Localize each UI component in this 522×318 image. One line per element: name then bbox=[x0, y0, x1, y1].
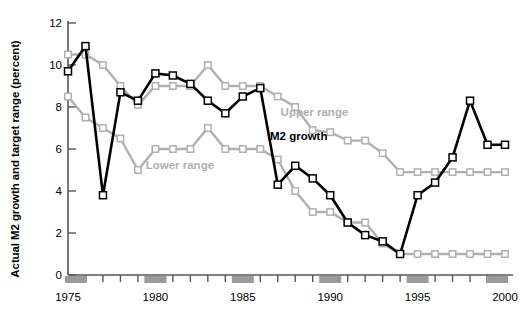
series-marker bbox=[239, 93, 246, 100]
series-marker bbox=[449, 251, 455, 257]
axis-lines bbox=[68, 21, 513, 275]
data-series-group bbox=[65, 43, 509, 258]
x-tick-major-block bbox=[232, 276, 254, 283]
series-marker bbox=[397, 169, 403, 175]
series-marker bbox=[449, 169, 455, 175]
x-tick-major-block bbox=[65, 276, 87, 283]
series-marker bbox=[100, 125, 106, 131]
series-marker bbox=[152, 83, 158, 89]
series-marker bbox=[222, 83, 228, 89]
series-marker bbox=[204, 97, 211, 104]
series-marker bbox=[327, 209, 333, 215]
series-marker bbox=[344, 137, 350, 143]
series-marker bbox=[414, 169, 420, 175]
series-annotation-label: Upper range bbox=[281, 106, 349, 118]
series-marker bbox=[205, 62, 211, 68]
series-marker bbox=[292, 188, 298, 194]
series-marker bbox=[484, 251, 490, 257]
series-marker bbox=[65, 51, 71, 57]
x-tick-major-block bbox=[407, 276, 429, 283]
y-axis-ticks: 024681012 bbox=[49, 17, 76, 281]
y-tick-label: 0 bbox=[56, 269, 62, 281]
x-tick-label: 2000 bbox=[492, 291, 518, 303]
series-marker bbox=[344, 219, 351, 226]
series-marker bbox=[362, 137, 368, 143]
y-tick-label: 2 bbox=[56, 227, 62, 239]
series-marker bbox=[502, 251, 508, 257]
series-marker bbox=[65, 93, 71, 99]
x-tick-major-block bbox=[144, 276, 166, 283]
x-tick-major-block bbox=[486, 276, 508, 283]
series-marker bbox=[152, 146, 158, 152]
series-marker bbox=[117, 135, 123, 141]
series-marker bbox=[187, 146, 193, 152]
series-marker bbox=[187, 80, 194, 87]
series-marker bbox=[170, 83, 176, 89]
series-marker bbox=[257, 85, 264, 92]
series-annotations: Upper rangeM2 growthLower range bbox=[146, 106, 349, 171]
m2-growth-chart: Actual M2 growth and target range (perce… bbox=[0, 0, 522, 318]
series-marker bbox=[484, 169, 490, 175]
series-marker bbox=[82, 114, 88, 120]
series-marker bbox=[292, 162, 299, 169]
x-tick-label: 1975 bbox=[55, 291, 81, 303]
series-marker bbox=[484, 141, 491, 148]
series-marker bbox=[309, 175, 316, 182]
series-marker bbox=[275, 93, 281, 99]
series-marker bbox=[152, 70, 159, 77]
series-marker bbox=[414, 192, 421, 199]
chart-plot-area: 024681012 197519801985199019952000 Upper… bbox=[0, 0, 522, 318]
series-marker bbox=[134, 97, 141, 104]
series-marker bbox=[432, 179, 439, 186]
series-marker bbox=[257, 146, 263, 152]
x-tick-label: 1990 bbox=[317, 291, 343, 303]
series-marker bbox=[222, 146, 228, 152]
x-tick-label: 1985 bbox=[230, 291, 256, 303]
series-marker bbox=[379, 238, 386, 245]
series-marker bbox=[467, 169, 473, 175]
series-marker bbox=[467, 97, 474, 104]
series-marker bbox=[414, 251, 420, 257]
y-tick-label: 6 bbox=[56, 143, 62, 155]
series-marker bbox=[205, 125, 211, 131]
series-marker bbox=[274, 181, 281, 188]
series-marker bbox=[502, 141, 509, 148]
x-axis-ticks: 197519801985199019952000 bbox=[55, 275, 518, 303]
series-marker bbox=[100, 62, 106, 68]
series-marker bbox=[397, 251, 404, 258]
y-tick-label: 4 bbox=[56, 185, 63, 197]
series-marker bbox=[362, 219, 368, 225]
series-marker bbox=[310, 209, 316, 215]
y-tick-label: 10 bbox=[49, 59, 62, 71]
series-marker bbox=[240, 146, 246, 152]
series-marker bbox=[467, 251, 473, 257]
x-tick-label: 1980 bbox=[143, 291, 169, 303]
series-marker bbox=[379, 150, 385, 156]
series-annotation-label: Lower range bbox=[146, 159, 214, 171]
series-marker bbox=[327, 192, 334, 199]
series-marker bbox=[65, 68, 72, 75]
series-annotation-label: M2 growth bbox=[270, 130, 328, 142]
series-marker bbox=[222, 110, 229, 117]
series-marker bbox=[327, 129, 333, 135]
series-marker bbox=[170, 146, 176, 152]
series-line bbox=[68, 46, 505, 254]
series-marker bbox=[432, 251, 438, 257]
series-marker bbox=[117, 89, 124, 96]
y-tick-label: 8 bbox=[56, 101, 62, 113]
x-tick-label: 1995 bbox=[405, 291, 431, 303]
series-marker bbox=[502, 169, 508, 175]
series-marker bbox=[240, 83, 246, 89]
y-tick-label: 12 bbox=[49, 17, 62, 29]
series-marker bbox=[432, 169, 438, 175]
series-marker bbox=[169, 72, 176, 79]
series-marker bbox=[449, 154, 456, 161]
x-tick-major-block bbox=[319, 276, 341, 283]
series-marker bbox=[135, 167, 141, 173]
series-marker bbox=[362, 232, 369, 239]
series-marker bbox=[82, 43, 89, 50]
series-marker bbox=[275, 156, 281, 162]
series-marker bbox=[99, 192, 106, 199]
